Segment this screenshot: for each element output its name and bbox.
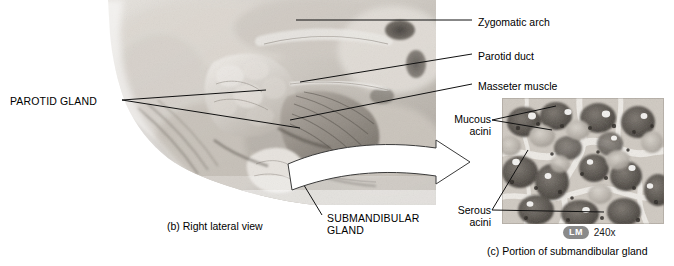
lateral-view-photograph-art [64, 0, 436, 205]
micrograph-art [502, 98, 664, 224]
magnification-badge: LM 240x [563, 226, 615, 239]
magnification-value: 240x [594, 227, 616, 238]
micrograph-image [502, 98, 664, 224]
label-submandibular-gland-line2: GLAND [327, 224, 364, 236]
label-mucous-acini-line1: Mucous [454, 113, 491, 125]
magnification-method-pill: LM [563, 226, 589, 239]
label-serous-acini: Serousacini [443, 204, 491, 228]
caption-panel-b: (b) Right lateral view [167, 220, 263, 232]
label-mucous-acini-line2: acini [469, 125, 491, 137]
label-parotid-duct: Parotid duct [478, 50, 534, 62]
label-submandibular-gland-line1: SUBMANDIBULAR [327, 212, 419, 224]
label-parotid-gland: PAROTID GLAND [10, 95, 97, 107]
figure-root: PAROTID GLAND Zygomatic arch Parotid duc… [0, 0, 674, 266]
label-serous-acini-line2: acini [469, 216, 491, 228]
lateral-view-photograph [64, 0, 436, 205]
label-mucous-acini: Mucousacini [443, 113, 491, 137]
label-masseter-muscle: Masseter muscle [478, 80, 557, 92]
caption-panel-c: (c) Portion of submandibular gland [487, 245, 648, 257]
label-submandibular-gland: SUBMANDIBULARGLAND [327, 212, 419, 236]
label-serous-acini-line1: Serous [458, 204, 491, 216]
label-zygomatic-arch: Zygomatic arch [478, 16, 550, 28]
